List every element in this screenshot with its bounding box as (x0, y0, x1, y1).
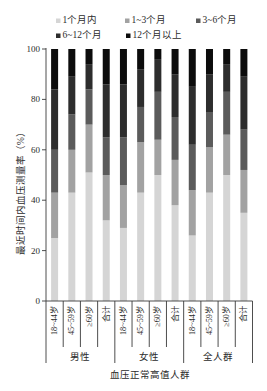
bar-segment (172, 117, 179, 160)
bar-segment (172, 49, 179, 74)
bar-stack (68, 49, 75, 301)
bar-segment (172, 205, 179, 301)
bar-segment (137, 69, 144, 107)
bar-segment (68, 193, 75, 301)
bar-segment (51, 89, 58, 149)
legend-swatch (126, 34, 131, 39)
legend-item: 6~12个月 (56, 30, 102, 40)
legend-label: 3~6个月 (203, 15, 238, 25)
bar-segment (103, 137, 110, 175)
bar-segment (86, 49, 93, 64)
bar-segment (172, 160, 179, 205)
bar-segment (120, 137, 127, 185)
group-label: 全人群 (203, 351, 233, 362)
bar-stack (137, 49, 144, 301)
bar-segment (154, 140, 161, 175)
bar-segment (68, 77, 75, 115)
bar-stack (86, 49, 93, 301)
legend-label: 12个月以上 (133, 30, 183, 40)
x-tick-label: 合计 (170, 306, 180, 322)
legend-item: 12个月以上 (126, 30, 182, 40)
y-axis-title: 最近时间内血压测量率（%） (15, 127, 26, 255)
bar-segment (240, 130, 247, 170)
y-tick-label: 100 (27, 44, 41, 54)
bar-segment (206, 74, 213, 112)
bar-segment (86, 64, 93, 89)
bar-segment (240, 170, 247, 213)
x-tick-label: 45~59岁 (66, 306, 76, 335)
bar-stack (51, 49, 58, 301)
x-tick-label: 18~44岁 (49, 306, 59, 335)
bar-segment (189, 87, 196, 145)
bar-segment (86, 125, 93, 173)
bar-segment (240, 49, 247, 77)
bar-segment (68, 49, 75, 77)
bar-segment (172, 74, 179, 117)
bar-segment (154, 59, 161, 92)
group-label: 男性 (70, 351, 90, 362)
bar-segment (51, 193, 58, 238)
bar-segment (120, 185, 127, 228)
bar-segment (103, 175, 110, 220)
x-tick-label: 18~44岁 (118, 306, 128, 335)
bar-segment (137, 193, 144, 301)
y-tick-label: 20 (31, 246, 41, 256)
bar-segment (154, 175, 161, 301)
bar-segment (51, 49, 58, 89)
legend-item: 3~6个月 (196, 15, 237, 25)
bar-segment (206, 49, 213, 74)
bar-segment (189, 190, 196, 235)
legend-item: 1~3个月 (125, 15, 166, 25)
x-tick-label: ≥60岁 (84, 306, 94, 327)
bar-segment (189, 145, 196, 190)
legend-swatch (56, 19, 61, 24)
bar-segment (189, 49, 196, 87)
bar-segment (68, 150, 75, 193)
x-tick-label: ≥60岁 (152, 306, 162, 327)
legend-swatch (196, 19, 201, 24)
bar-segment (137, 107, 144, 142)
bar-segment (206, 112, 213, 147)
x-tick-label: 45~59岁 (204, 306, 214, 335)
legend-item: 1个月内 (56, 14, 97, 25)
x-axis-title: 血压正常高值人群 (110, 369, 190, 380)
y-tick-label: 80 (31, 94, 41, 104)
bar-stack (206, 49, 213, 301)
group-label: 女性 (139, 351, 159, 362)
y-tick-label: 40 (31, 195, 41, 205)
bar-segment (154, 92, 161, 140)
bar-segment (120, 49, 127, 84)
bar-stack (172, 49, 179, 301)
bar-segment (103, 84, 110, 137)
bar-segment (51, 150, 58, 193)
legend-swatch (125, 19, 130, 24)
x-tick-label: 18~44岁 (187, 306, 197, 335)
legend-label: 1个月内 (63, 14, 98, 25)
bar-segment (223, 64, 230, 92)
bar-segment (120, 228, 127, 301)
legend-label: 1~3个月 (132, 15, 167, 25)
bar-segment (240, 213, 247, 301)
bar-segment (137, 49, 144, 69)
bar-stack (189, 49, 196, 301)
bar-segment (86, 172, 93, 301)
bar-segment (206, 193, 213, 301)
bar-segment (223, 175, 230, 301)
x-tick-label: 45~59岁 (135, 306, 145, 335)
legend-label: 6~12个月 (63, 30, 102, 40)
bar-stack (223, 49, 230, 301)
x-tick-label: 合计 (238, 306, 248, 322)
stacked-bar-chart: 1个月内1~3个月3~6个月6~12个月12个月以上 020406080100 … (0, 0, 267, 391)
bar-segment (154, 49, 161, 59)
bar-segment (120, 84, 127, 137)
bar-segment (51, 238, 58, 301)
bar-segment (103, 49, 110, 84)
bar-segment (206, 147, 213, 192)
bar-segment (240, 77, 247, 130)
bar-segment (103, 220, 110, 301)
bar-segment (223, 49, 230, 64)
bar-segment (223, 135, 230, 175)
bar-segment (86, 89, 93, 124)
legend-swatch (56, 34, 61, 39)
bar-segment (189, 235, 196, 301)
